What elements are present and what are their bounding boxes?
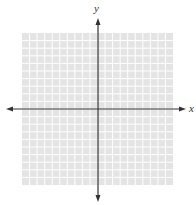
arrow-right-icon <box>179 107 186 112</box>
y-axis-label: y <box>94 3 99 14</box>
arrow-left-icon <box>6 107 13 112</box>
arrow-up-icon <box>96 18 101 25</box>
x-axis-label: x <box>189 103 194 114</box>
arrow-down-icon <box>96 195 101 202</box>
coordinate-plane <box>0 0 196 205</box>
